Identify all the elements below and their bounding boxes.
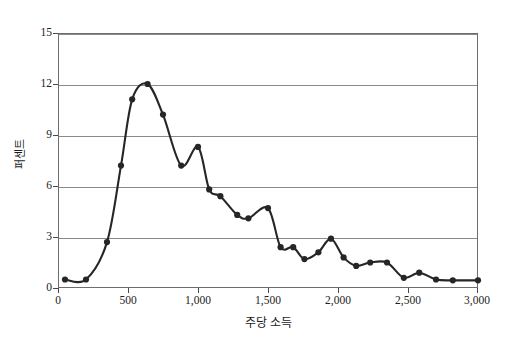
x-axis-label: 주당 소득: [58, 313, 478, 331]
data-point: [301, 256, 307, 262]
data-point: [433, 276, 439, 282]
data-point: [265, 205, 271, 211]
series-markers: [62, 81, 481, 284]
data-point: [234, 212, 240, 218]
y-tickmark: [53, 33, 58, 34]
data-point: [353, 263, 359, 269]
data-point: [206, 186, 212, 192]
data-point: [118, 163, 124, 169]
x-tick-label: 3,000: [442, 295, 512, 307]
y-tick-label: 12: [6, 78, 52, 90]
data-point: [341, 254, 347, 260]
x-tickmark: [128, 288, 129, 293]
x-tickmark: [268, 288, 269, 293]
data-point: [245, 215, 251, 221]
y-tickmark: [53, 135, 58, 136]
data-point: [278, 244, 284, 250]
data-point: [104, 239, 110, 245]
x-tick-label: 2,000: [303, 295, 373, 307]
y-tick-label: 15: [6, 27, 52, 39]
y-tick-label: 0: [6, 282, 52, 294]
x-tickmark: [338, 288, 339, 293]
data-point: [83, 276, 89, 282]
y-axis-label: 퍼센트: [11, 119, 27, 189]
y-tickmark: [53, 186, 58, 187]
data-point: [62, 276, 68, 282]
chart-figure: 15 12 9 6 3 0 0 500 1,000 1,500 2,000 2,…: [0, 0, 519, 349]
x-tickmark: [477, 288, 478, 293]
data-point: [401, 275, 407, 281]
y-tickmark: [53, 237, 58, 238]
data-point: [217, 193, 223, 199]
data-point: [290, 244, 296, 250]
x-tick-label: 2,500: [373, 295, 443, 307]
data-point: [145, 81, 151, 87]
data-point: [315, 249, 321, 255]
data-point: [328, 236, 334, 242]
x-tick-label: 0: [23, 295, 93, 307]
data-point: [416, 270, 422, 276]
x-tick-label: 500: [93, 295, 163, 307]
x-tick-label: 1,500: [233, 295, 303, 307]
y-tickmark: [53, 84, 58, 85]
x-tick-label: 1,000: [163, 295, 233, 307]
y-tick-label: 3: [6, 231, 52, 243]
data-point: [384, 259, 390, 265]
data-point: [195, 144, 201, 150]
x-tickmark: [58, 288, 59, 293]
x-tickmark: [198, 288, 199, 293]
data-point: [367, 259, 373, 265]
x-tickmark: [408, 288, 409, 293]
data-point: [178, 163, 184, 169]
data-point: [129, 96, 135, 102]
data-point: [475, 277, 481, 283]
data-point: [160, 112, 166, 118]
series-line: [65, 83, 478, 282]
data-point: [450, 277, 456, 283]
